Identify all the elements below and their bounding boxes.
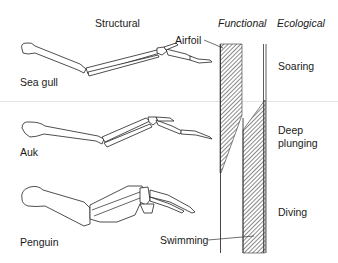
swimming-band xyxy=(243,100,265,253)
wing-adaptation-diagram: Structural Functional Ecological xyxy=(0,0,338,263)
bird-label-auk: Auk xyxy=(20,146,38,158)
auk-wing xyxy=(22,117,212,147)
functional-label-airfoil: Airfoil xyxy=(175,34,201,46)
ecological-label-deep: Deep xyxy=(278,124,303,136)
penguin-wing xyxy=(22,186,195,226)
bird-label-penguin: Penguin xyxy=(20,236,59,248)
ecological-label-diving: Diving xyxy=(278,206,307,218)
ecological-label-plunging: plunging xyxy=(278,137,318,149)
bird-label-seagull: Sea gull xyxy=(20,76,58,88)
functional-label-swimming: Swimming xyxy=(160,234,208,246)
ecological-label-soaring: Soaring xyxy=(278,60,314,72)
seagull-wing xyxy=(22,43,212,76)
airfoil-band xyxy=(220,44,242,253)
